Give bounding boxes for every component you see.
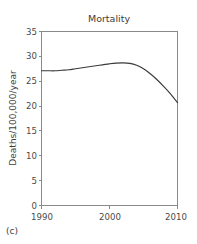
ytick-label-25: 25: [26, 76, 37, 86]
ytick-label-10: 10: [26, 151, 37, 161]
panel-label: (c): [6, 226, 18, 236]
ytick-label-15: 15: [26, 126, 37, 136]
ytick-label-5: 5: [32, 176, 37, 186]
ytick-label-35: 35: [26, 27, 37, 37]
chart-title: Mortality: [88, 13, 130, 24]
ytick-label-30: 30: [26, 51, 37, 61]
y-axis-title: Deaths/100,000/year: [8, 70, 18, 166]
xtick-label-1990: 1990: [31, 212, 53, 222]
xtick-label-2000: 2000: [99, 212, 121, 222]
ytick-label-0: 0: [32, 201, 37, 211]
figure-panel: Mortality 35 30 25 20 15 10 5 0: [0, 0, 197, 244]
ytick-label-20: 20: [26, 101, 37, 111]
xtick-label-2010: 2010: [165, 212, 187, 222]
mortality-line-chart: Mortality 35 30 25 20 15 10 5 0: [0, 0, 197, 244]
